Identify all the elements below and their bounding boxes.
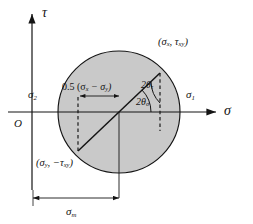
sigma-m-label: σm: [66, 206, 76, 218]
origin-label: O: [14, 118, 22, 129]
sigma-2-sub: 2: [33, 94, 36, 101]
sigma-1-sub: 1: [191, 94, 194, 101]
half-difference-mid: − σ: [88, 81, 105, 92]
point-x-close: ): [184, 36, 188, 47]
sigma-2-label: σ2: [28, 89, 37, 101]
half-difference-close: ): [108, 81, 111, 92]
mohr-circle-figure: τ σ O σ2 σ1 σm (σx, τxy) (σy, −τxy) 0.5 …: [0, 0, 253, 224]
point-y-mid: , −τ: [48, 157, 64, 168]
sigma-axis-label: σ: [224, 104, 231, 118]
angle-tau-base: 2θ: [141, 79, 151, 90]
angle-sigma-base: 2θ: [136, 96, 146, 107]
half-difference-lead: 0.5 (σ: [62, 81, 86, 92]
angle-2theta-sigma-label: 2θσ: [136, 97, 149, 108]
angle-2theta-tau-label: 2θτ: [141, 80, 153, 91]
angle-sigma-sub: σ: [146, 100, 149, 107]
point-y-open: (σ: [36, 157, 45, 168]
sigma-1-label: σ1: [186, 89, 195, 101]
point-x-open: (σ: [158, 36, 167, 47]
point-y-label: (σy, −τxy): [36, 158, 73, 169]
point-y-close: ): [69, 157, 73, 168]
point-x-mid: , τ: [170, 36, 179, 47]
mohr-circle-canvas: [0, 0, 253, 224]
angle-tau-sub: τ: [151, 83, 153, 90]
tau-axis-label: τ: [42, 6, 47, 20]
sigma-m-sub: m: [71, 211, 76, 218]
point-x-label: (σx, τxy): [158, 37, 188, 48]
half-difference-label: 0.5 (σx − σy): [62, 82, 111, 93]
